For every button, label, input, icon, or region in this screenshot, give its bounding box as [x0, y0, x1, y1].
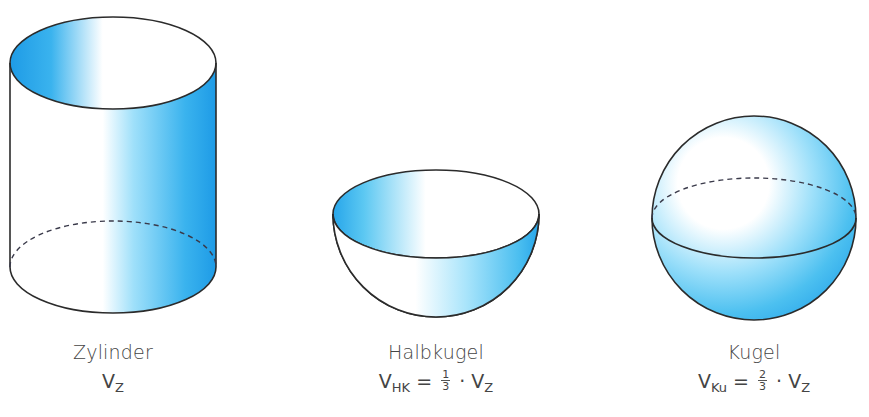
formula-rhs-sub: Z	[484, 380, 493, 395]
formula-var: V	[698, 370, 711, 392]
formula-rhs-var: V	[471, 370, 484, 392]
formula-dot: ·	[459, 370, 465, 392]
formula-sub: Ku	[711, 380, 727, 395]
hemisphere-formula: VHK = 13 · VZ	[336, 370, 536, 395]
formula-dot: ·	[776, 370, 782, 392]
sphere-figure	[652, 116, 856, 320]
hemisphere-figure	[333, 170, 539, 317]
hemisphere-label: Halbkugel	[336, 341, 536, 363]
cylinder-formula: VZ	[13, 370, 213, 395]
cylinder-label: Zylinder	[13, 341, 213, 363]
formula-sub: Z	[115, 380, 124, 395]
formula-var: V	[102, 370, 115, 392]
formula-equals: =	[733, 370, 749, 392]
formula-rhs-sub: Z	[801, 380, 810, 395]
sphere-formula: VKu = 23 · VZ	[654, 370, 854, 395]
formula-equals: =	[416, 370, 432, 392]
formula-fraction: 13	[441, 369, 450, 392]
sphere-label: Kugel	[654, 341, 854, 363]
formula-rhs-var: V	[788, 370, 801, 392]
cylinder-figure	[10, 17, 216, 313]
formula-var: V	[379, 370, 392, 392]
formula-fraction: 23	[758, 369, 767, 392]
formula-sub: HK	[392, 380, 410, 395]
